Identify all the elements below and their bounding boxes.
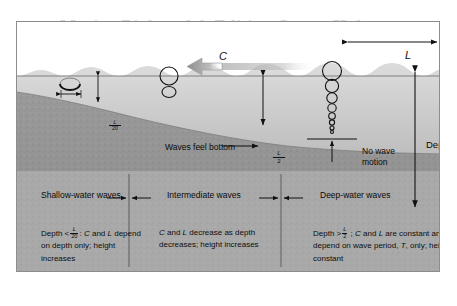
deep-lead: Depth > [313,229,341,238]
deep-fraction: L2 [342,227,347,239]
inter-mid: and [165,228,183,237]
annotation-l-over-2: L 2 [273,150,285,164]
l20-denominator: 20 [109,126,121,131]
shallow-lead: Depth < [41,229,69,238]
label-no-wave-motion: No wave motion [362,146,395,167]
label-waves-feel-bottom: Waves feel bottom [165,142,235,152]
description-shallow-water: Depth <L20: C and L depend on depth only… [41,227,145,265]
zone-label-intermediate: Intermediate waves [167,190,241,201]
description-deep-water: Depth >L2 ; C and L are constant and dep… [313,227,440,265]
description-intermediate: C and L decrease as depth decreases; hei… [159,227,277,252]
label-wave-speed: C [219,50,227,63]
zone-label-deep-water: Deep-water waves [320,190,390,201]
shallow-frac-den: 20 [70,234,78,240]
figure-frame: C L Waves feel bottom No wave motion Dep… [16,21,440,272]
zone-label-shallow-water: Shallow-water waves [41,190,121,201]
deep-frac-den: 2 [342,234,347,240]
label-wavelength: L [405,49,411,62]
l2-denominator: 2 [273,158,285,165]
shallow-fraction: L20 [70,227,78,239]
figure-canvas: Marine Biology 9th Edition Castro Huber [0,0,457,306]
shallow-rest2: and [90,229,108,238]
deep-rest2: and [361,229,379,238]
annotation-l-over-20: L 20 [109,120,121,132]
label-depth: Depth [426,139,440,150]
